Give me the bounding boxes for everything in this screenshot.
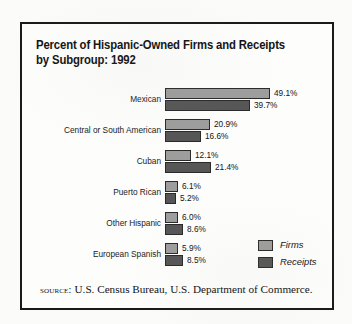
bars-group: 6.1%5.2% (165, 179, 332, 209)
bar-receipts (165, 100, 250, 111)
bar-row: Puerto Rican6.1%5.2% (22, 179, 332, 209)
bar-receipts (165, 131, 201, 142)
bar-value-label: 16.6% (205, 131, 228, 142)
bar-row: Other Hispanic6.0%8.6% (22, 210, 332, 240)
bar-row: Central or South American20.9%16.6% (22, 117, 332, 147)
bar-value-label: 6.1% (182, 181, 201, 192)
category-label: Other Hispanic (36, 218, 161, 229)
bars-group: 49.1%39.7% (165, 86, 332, 116)
figure-frame: Percent of Hispanic-Owned Firms and Rece… (20, 22, 334, 310)
bar-firms (165, 243, 178, 254)
legend-item: Receipts (258, 255, 328, 272)
bar-receipts (165, 193, 176, 204)
bar-firms (165, 150, 191, 161)
bar-value-label: 8.5% (187, 255, 206, 266)
legend-label-receipts: Receipts (280, 256, 316, 268)
bar-value-label: 39.7% (254, 100, 277, 111)
bar-row: Cuban12.1%21.4% (22, 148, 332, 178)
bars-group: 6.0%8.6% (165, 210, 332, 240)
category-label: Mexican (36, 94, 161, 105)
bar-value-label: 8.6% (187, 224, 206, 235)
bar-firms (165, 88, 270, 99)
bar-value-label: 49.1% (274, 88, 297, 99)
legend-label-firms: Firms (280, 239, 303, 251)
bar-value-label: 12.1% (195, 150, 218, 161)
bar-receipts (165, 224, 183, 235)
legend-item: Firms (258, 238, 328, 255)
category-label: Cuban (36, 156, 161, 167)
chart-legend: FirmsReceipts (258, 238, 328, 272)
category-label: European Spanish (36, 249, 161, 260)
chart-title: Percent of Hispanic-Owned Firms and Rece… (36, 38, 293, 67)
bar-receipts (165, 255, 183, 266)
bar-value-label: 5.9% (182, 243, 201, 254)
source-text: U.S. Census Bureau, U.S. Department of C… (75, 283, 313, 295)
category-label: Central or South American (36, 125, 161, 136)
source-note: source:U.S. Census Bureau, U.S. Departme… (40, 283, 322, 296)
bar-value-label: 20.9% (214, 119, 237, 130)
bar-value-label: 21.4% (215, 162, 238, 173)
legend-swatch-firms (258, 240, 273, 251)
bar-firms (165, 119, 210, 130)
bars-group: 12.1%21.4% (165, 148, 332, 178)
bar-row: Mexican49.1%39.7% (22, 86, 332, 116)
bars-group: 20.9%16.6% (165, 117, 332, 147)
bar-firms (165, 212, 178, 223)
bar-receipts (165, 162, 211, 173)
bar-firms (165, 181, 178, 192)
source-label: source: (40, 284, 72, 295)
bar-value-label: 6.0% (182, 212, 201, 223)
legend-swatch-receipts (258, 257, 273, 268)
category-label: Puerto Rican (36, 187, 161, 198)
bar-value-label: 5.2% (180, 193, 199, 204)
